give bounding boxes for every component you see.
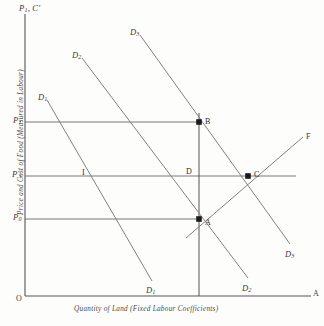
price-label-p1-prime-sub: 1 (19, 173, 22, 179)
origin-label: O (16, 294, 22, 303)
y-axis-title: Price and Cost of Food (Measured in Labo… (17, 67, 25, 217)
curve-label-d1-top: D1 (38, 92, 48, 102)
x-axis-right-label: A (313, 289, 319, 298)
point-label-c: C (254, 170, 259, 179)
curve-label-d2-bottom: D2 (242, 283, 252, 293)
curve-label-d2-bottom-sub: 2 (248, 287, 251, 293)
y-axis-top-label: P1, C' (19, 3, 40, 13)
point-marker-b (196, 119, 202, 125)
curve-label-d1-bottom-sub: 1 (152, 289, 155, 295)
point-label-d: D (186, 167, 192, 176)
y-axis-top-sub: 1 (24, 7, 27, 13)
point-label-b: B (205, 117, 210, 126)
curve-label-d3-top-sub: 3 (136, 31, 139, 37)
curve-label-f: F (306, 132, 311, 141)
curve-label-d3-bottom-sub: 3 (291, 253, 294, 259)
point-marker-a (196, 216, 202, 222)
curve-label-d3-bottom: D3 (285, 249, 295, 259)
price-label-p0: P0 (13, 212, 22, 222)
curve-label-d1-bottom: D1 (146, 285, 156, 295)
price-label-p1: P1 (13, 115, 22, 125)
diagram-canvas (0, 0, 324, 326)
demand-curve-d2 (82, 58, 248, 278)
point-label-a: A (205, 218, 211, 227)
demand-curve-d1 (47, 100, 152, 281)
price-label-p0-sub: 0 (18, 216, 21, 222)
curve-label-d3-top: D3 (130, 27, 140, 37)
curve-label-d2-top: D2 (72, 50, 82, 60)
curve-label-d2-top-sub: 2 (78, 54, 81, 60)
curve-label-d1-top-sub: 1 (44, 96, 47, 102)
x-axis-title: Quantity of Land (Fixed Labour Coefficie… (74, 305, 218, 313)
point-marker-c (245, 173, 251, 179)
economics-diagram: Price and Cost of Food (Measured in Labo… (0, 0, 324, 326)
price-label-p1-prime: P'1 (12, 169, 22, 179)
point-label-i: I (82, 168, 85, 177)
price-label-p1-sub: 1 (18, 119, 21, 125)
cost-curve-f (186, 137, 303, 238)
